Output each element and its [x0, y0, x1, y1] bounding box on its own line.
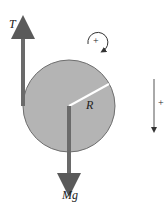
- direction-sign: +: [158, 97, 164, 108]
- weight-label: Mg: [62, 188, 78, 203]
- rotation-sign: +: [93, 35, 99, 46]
- radius-label: R: [86, 98, 93, 113]
- free-body-diagram: [0, 0, 167, 220]
- tension-label: T: [9, 17, 16, 32]
